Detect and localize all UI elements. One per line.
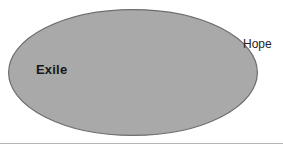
diagram-canvas: Exile Hope [0, 0, 283, 150]
label-layer: Exile Hope [0, 0, 283, 150]
exile-label: Exile [36, 63, 67, 76]
hope-label: Hope [243, 38, 272, 50]
